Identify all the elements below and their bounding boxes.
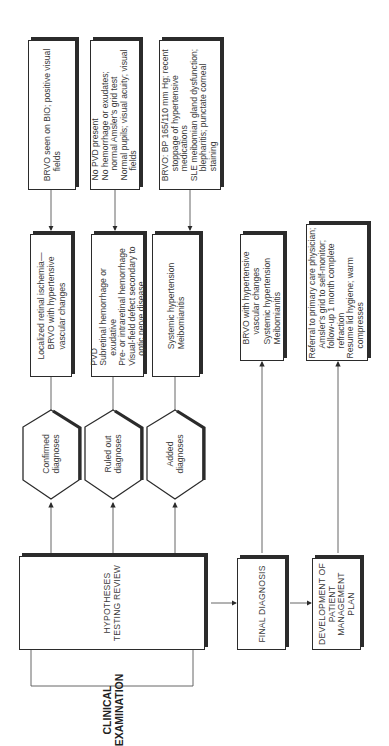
final-detail-line: vascular changes [252,251,262,344]
ruled-out-result-box: PVD Subretinal hemorrhage or exudative P… [91,234,144,377]
hex-added-line-2: diagnoses [175,434,185,473]
added-result-line: Systemic hypertension [166,262,176,348]
added-result-box: Systemic hypertension Meibomianitis [152,234,200,377]
final-detail-line: Meibomianitis [272,251,282,344]
ruled-out-evidence-line: fields [129,50,139,181]
final-detail-line: BRVO with hypertensive [241,251,251,344]
final-diagnosis-detail-box: BRVO with hypertensive vascular changes … [240,234,284,361]
hexagon-added-diagnoses: Added diagnoses [147,428,203,480]
hex-confirmed-line-2: diagnoses [51,434,61,474]
management-detail-box: Referral to primary care physician; Amsl… [306,224,368,361]
hexagon-ruled-out-diagnoses: Ruled out diagnoses [85,428,141,480]
hex-ruled-out-line-2: diagnoses [113,434,123,473]
confirmed-evidence-line: BRVO seen on BIO; positive visual [42,49,52,182]
final-detail-line: Systemic hypertension [262,251,272,344]
added-evidence-box: BRVO: BP 165/110 mm Hg; recent stoppage … [159,40,221,190]
ruled-out-result-line: optic nerve disease [136,246,145,365]
confirmed-evidence-box: BRVO seen on BIO; positive visual fields [28,40,76,190]
confirmed-result-line: vascular changes [56,252,66,359]
ruled-out-result-line: Subretinal hemorrhage or [99,246,108,365]
added-result-line: Meibomianitis [176,262,186,348]
hex-confirmed-line-1: Confirmed [41,434,51,474]
added-evidence-line: staining [209,49,219,181]
confirmed-evidence-line: fields [52,49,62,182]
ruled-out-result-line: Pre- or intraretinal hemorrhage [118,246,127,365]
hex-added-line-1: Added [165,434,175,473]
confirmed-result-box: Localized retinal ischemia— BRVO with hy… [30,234,72,377]
hex-ruled-out-line-1: Ruled out [103,434,113,473]
hexagon-confirmed-diagnoses: Confirmed diagnoses [23,428,79,480]
ruled-out-evidence-box: No PVD present No hemorrhage or exudates… [90,40,140,190]
mgmt-detail-line: compresses [356,227,366,358]
confirmed-result-line: BRVO with hypertensive [46,252,56,359]
confirmed-result-line: Localized retinal ischemia— [36,252,46,359]
